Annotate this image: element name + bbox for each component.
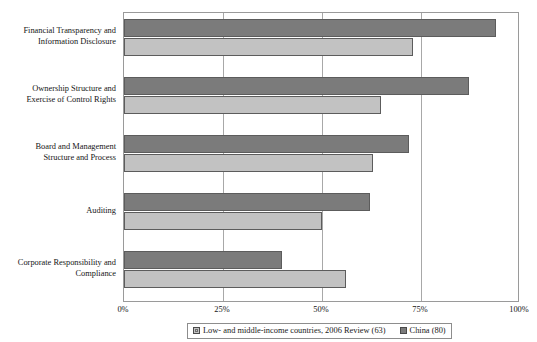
category-label-line: Corporate Responsibility and	[4, 257, 116, 268]
x-tick-label: 75%	[412, 305, 427, 314]
legend-swatch-lmic-icon	[193, 327, 200, 334]
bar-china	[124, 193, 370, 211]
bar-group	[124, 13, 518, 71]
bar-lmic	[124, 154, 373, 172]
category-label: Board and ManagementStructure and Proces…	[4, 141, 116, 163]
bar-group	[124, 187, 518, 245]
bar-lmic	[124, 96, 381, 114]
category-label-line: Board and Management	[4, 141, 116, 152]
category-label: Corporate Responsibility andCompliance	[4, 257, 116, 279]
bar-china	[124, 19, 496, 37]
bar-china	[124, 135, 409, 153]
legend-label-china: China (80)	[410, 325, 446, 336]
bar-lmic	[124, 38, 413, 56]
legend-swatch-china-icon	[400, 327, 407, 334]
bar-lmic	[124, 212, 322, 230]
plot-area	[123, 12, 519, 302]
bar-lmic	[124, 270, 346, 288]
x-tick-label: 0%	[117, 305, 128, 314]
category-label-line: Financial Transparency and	[4, 25, 116, 36]
bar-china	[124, 77, 469, 95]
category-label-line: Exercise of Control Rights	[4, 94, 116, 105]
legend-label-lmic: Low- and middle-income countries, 2006 R…	[203, 325, 386, 336]
bar-group	[124, 71, 518, 129]
chart-legend: Low- and middle-income countries, 2006 R…	[187, 323, 452, 339]
legend-item-lmic: Low- and middle-income countries, 2006 R…	[193, 325, 386, 336]
category-label-line: Ownership Structure and	[4, 83, 116, 94]
category-label-line: Compliance	[4, 268, 116, 279]
x-tick-label: 50%	[313, 305, 328, 314]
x-tick-label: 25%	[214, 305, 229, 314]
x-tick-label: 100%	[509, 305, 529, 314]
category-label: Financial Transparency andInformation Di…	[4, 25, 116, 47]
bar-group	[124, 245, 518, 303]
category-label: Auditing	[4, 205, 116, 216]
category-label-line: Structure and Process	[4, 152, 116, 163]
bar-group	[124, 129, 518, 187]
bar-chart: Financial Transparency andInformation Di…	[0, 0, 537, 342]
category-label: Ownership Structure andExercise of Contr…	[4, 83, 116, 105]
legend-item-china: China (80)	[400, 325, 446, 336]
chart-title-clipped	[0, 0, 537, 1]
bar-china	[124, 251, 282, 269]
category-label-line: Auditing	[4, 205, 116, 216]
category-label-line: Information Disclosure	[4, 36, 116, 47]
